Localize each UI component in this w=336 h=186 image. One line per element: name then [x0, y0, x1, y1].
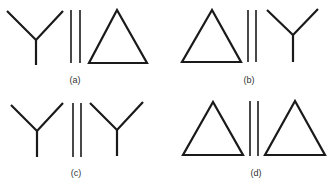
panel-label-c: (c): [71, 168, 82, 178]
y-junction-icon: [11, 103, 63, 131]
panel-c: (c): [11, 102, 143, 178]
panel-a: (a): [7, 10, 147, 85]
panel-label-a: (a): [70, 75, 81, 85]
triangle-icon: [183, 102, 243, 155]
y-junction-icon: [7, 11, 63, 40]
panel-label-d: (d): [251, 168, 262, 178]
triangle-icon: [182, 10, 241, 62]
figure-diagram: (a) (b) (c) (d): [0, 0, 336, 186]
panel-b: (b): [182, 9, 318, 85]
panel-d: (d): [183, 101, 325, 178]
panel-label-b: (b): [244, 75, 255, 85]
y-junction-icon: [90, 102, 143, 130]
figure-canvas: (a) (b) (c) (d): [0, 0, 336, 186]
triangle-icon: [265, 101, 325, 155]
triangle-icon: [89, 10, 147, 63]
y-junction-icon: [267, 9, 318, 35]
